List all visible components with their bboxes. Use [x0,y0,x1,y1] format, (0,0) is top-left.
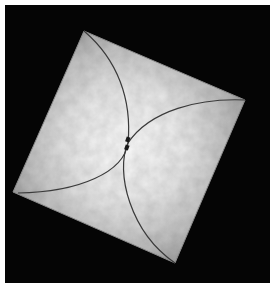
paper-square-figure [0,0,272,287]
